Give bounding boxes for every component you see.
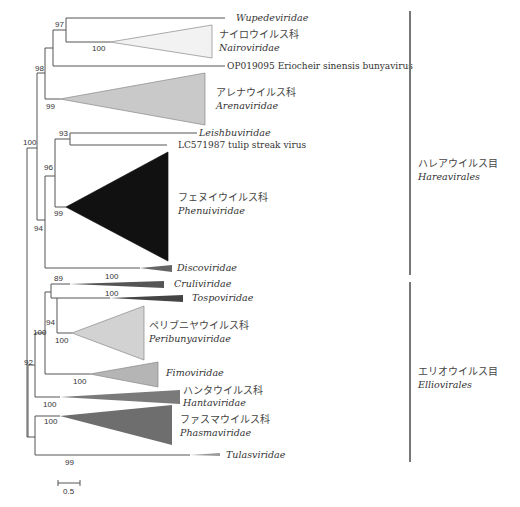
order-elliovirales: Elliovirales [417, 379, 472, 390]
label-arenaviridae-jp: アレナウイルス科 [216, 86, 296, 98]
order-hareavirales-jp: ハレアウイルス目 [418, 158, 498, 169]
support-100-hareavirales: 100 [23, 138, 37, 147]
support-98: 98 [35, 64, 44, 73]
label-phenuiviridae: Phenuiviridae [177, 205, 245, 216]
label-tulasviridae: Tulasviridae [226, 449, 286, 460]
label-nairoviridae: Nairoviridae [218, 42, 280, 53]
support-100-hantaviridae: 100 [43, 400, 57, 409]
label-discoviridae: Discoviridae [176, 262, 237, 273]
support-100-phasmaviridae: 100 [44, 417, 58, 426]
label-fimoviridae: Fimoviridae [165, 367, 224, 378]
discoviridae-triangle [140, 265, 172, 272]
scale-bar: 0.5 [58, 480, 80, 496]
support-100-elliovirales: 100 [33, 328, 47, 337]
label-lc571987: LC571987 tulip streak virus [178, 140, 306, 150]
label-phasmaviridae: Phasmaviridae [179, 427, 251, 438]
support-99-tulasviridae: 99 [65, 458, 74, 467]
label-cruliviridae: Cruliviridae [174, 278, 232, 289]
support-100-nairoviridae: 100 [92, 44, 106, 53]
support-100-fimoviridae: 100 [73, 377, 87, 386]
label-peribunyaviridae: Peribunyaviridae [148, 333, 231, 344]
node-89 [51, 284, 70, 298]
support-89: 89 [54, 274, 63, 283]
support-97: 97 [55, 20, 64, 29]
tulasviridae-triangle [190, 453, 220, 456]
label-nairoviridae-jp: ナイロウイルス科 [219, 28, 299, 40]
label-leishbuviridae: Leishbuviridae [198, 127, 271, 138]
nairoviridae-triangle [110, 25, 212, 58]
support-94-elliovirales: 94 [46, 318, 55, 327]
node-100-hareavirales [27, 148, 37, 348]
phenuiviridae-triangle [66, 152, 168, 261]
phasmaviridae-triangle [60, 405, 172, 445]
hantaviridae-triangle [60, 390, 180, 404]
label-wupedeviridae: Wupedeviridae [236, 12, 309, 23]
label-phasmaviridae-jp: ファスマウイルス科 [180, 413, 270, 425]
support-92: 92 [24, 358, 33, 367]
label-hantaviridae: Hantaviridae [182, 397, 246, 408]
support-100-peribunyaviridae: 100 [55, 336, 69, 345]
label-hantaviridae-jp: ハンタウイルス科 [183, 384, 263, 396]
peribunyaviridae-triangle [72, 306, 144, 360]
scale-bar-label: 0.5 [63, 487, 75, 496]
support-100-cruliviridae: 100 [105, 289, 119, 298]
order-elliovirales-jp: エリオウイルス目 [418, 366, 498, 377]
node-hareavirales-inner [37, 73, 45, 220]
label-op019095: OP019095 Eriocheir sinensis bunyavirus [227, 61, 413, 71]
label-tospoviridae: Tospoviridae [192, 292, 254, 303]
cruliviridae-triangle [70, 281, 164, 288]
fimoviridae-triangle [90, 362, 158, 387]
label-phenuiviridae-jp: フェヌイウイルス科 [178, 191, 268, 203]
order-hareavirales: Hareavirales [417, 171, 480, 182]
label-arenaviridae: Arenaviridae [215, 100, 279, 111]
support-100-discoviridae: 100 [105, 272, 119, 281]
phylogenetic-tree: 97 100 98 99 100 93 96 99 94 100 89 100 … [0, 0, 520, 507]
support-99-phenuiviridae: 99 [54, 209, 63, 218]
node-96 [55, 139, 70, 207]
support-93: 93 [59, 129, 68, 138]
arenaviridae-triangle [60, 73, 205, 125]
support-96: 96 [44, 163, 53, 172]
support-94-hareavirales: 94 [34, 224, 43, 233]
node-92 [28, 365, 35, 437]
support-99-arenaviridae: 99 [46, 102, 55, 111]
tospoviridae-triangle [110, 295, 183, 302]
label-peribunyaviridae-jp: ペリブニヤウイルス科 [149, 319, 249, 331]
